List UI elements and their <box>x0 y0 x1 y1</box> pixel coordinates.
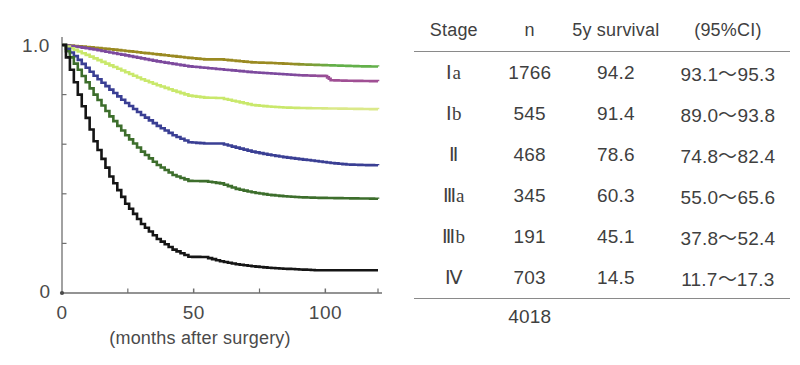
ci-cell: 93.1～95.3 <box>666 52 790 94</box>
survival-cell: 94.2 <box>566 52 666 94</box>
n-cell: 191 <box>494 216 566 257</box>
chart-ticks <box>62 95 378 293</box>
table-total-row: 4018 <box>414 299 790 336</box>
x-axis-label-50: 50 <box>183 302 205 324</box>
stage-cell: Ⅰb <box>414 93 494 134</box>
survival-table: Stage n 5y survival (95%CI) Ⅰa176694.293… <box>414 14 790 335</box>
table-row: Ⅲb19145.137.8～52.4 <box>414 216 790 257</box>
ci-cell: 89.0～93.8 <box>666 93 790 134</box>
table-row: Ⅲa34560.355.0～65.6 <box>414 175 790 216</box>
survival-table-panel: Stage n 5y survival (95%CI) Ⅰa176694.293… <box>408 0 800 365</box>
chart-series <box>62 45 378 270</box>
n-cell: 345 <box>494 175 566 216</box>
survival-cell: 60.3 <box>566 175 666 216</box>
x-axis-label-100: 100 <box>309 302 342 324</box>
y-axis-label-top: 1.0 <box>22 35 50 57</box>
total-label-cell <box>414 299 494 336</box>
survival-cell: 14.5 <box>566 257 666 299</box>
x-axis-label-0: 0 <box>57 302 68 324</box>
table-row: Ⅱ46878.674.8～82.4 <box>414 134 790 175</box>
survival-cell: 45.1 <box>566 216 666 257</box>
ci-cell: 11.7～17.3 <box>666 257 790 299</box>
n-cell: 703 <box>494 257 566 299</box>
stage-cell: Ⅲa <box>414 175 494 216</box>
column-header-survival: 5y survival <box>566 14 666 52</box>
table-header-row: Stage n 5y survival (95%CI) <box>414 14 790 52</box>
table-row: Ⅰb54591.489.0～93.8 <box>414 93 790 134</box>
column-header-ci: (95%CI) <box>666 14 790 52</box>
column-header-n: n <box>494 14 566 52</box>
x-axis-title: (months after surgery) <box>0 328 400 349</box>
total-ci-cell <box>666 299 790 336</box>
n-cell: 545 <box>494 93 566 134</box>
series-line-ii <box>62 45 378 109</box>
table-row: Ⅳ70314.511.7～17.3 <box>414 257 790 299</box>
ci-cell: 74.8～82.4 <box>666 134 790 175</box>
ci-cell: 55.0～65.6 <box>666 175 790 216</box>
figure-root: 1.0 0 0 50 100 (months after surgery) St… <box>0 0 800 365</box>
stage-cell: Ⅱ <box>414 134 494 175</box>
survival-chart-panel: 1.0 0 0 50 100 (months after surgery) <box>0 0 400 365</box>
stage-cell: Ⅰa <box>414 52 494 94</box>
table-body: Ⅰa176694.293.1～95.3Ⅰb54591.489.0～93.8Ⅱ46… <box>414 52 790 299</box>
survival-cell: 78.6 <box>566 134 666 175</box>
table-row: Ⅰa176694.293.1～95.3 <box>414 52 790 94</box>
column-header-stage: Stage <box>414 14 494 52</box>
stage-cell: Ⅳ <box>414 257 494 299</box>
n-cell: 468 <box>494 134 566 175</box>
stage-cell: Ⅲb <box>414 216 494 257</box>
table-foot: 4018 <box>414 299 790 336</box>
table-head: Stage n 5y survival (95%CI) <box>414 14 790 52</box>
y-axis-label-bottom: 0 <box>40 281 51 303</box>
n-cell: 1766 <box>494 52 566 94</box>
ci-cell: 37.8～52.4 <box>666 216 790 257</box>
chart-axes <box>60 37 382 295</box>
total-n-value: 4018 <box>494 299 566 336</box>
total-survival-cell <box>566 299 666 336</box>
survival-cell: 91.4 <box>566 93 666 134</box>
